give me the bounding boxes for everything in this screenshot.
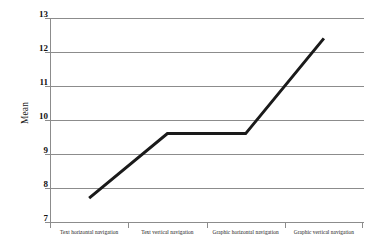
data-series-line xyxy=(50,18,363,222)
x-tick-mark xyxy=(128,222,129,228)
x-category-label: Graphic horizontal navigation xyxy=(213,230,279,236)
x-axis-category-labels: Text horizontal navigationText vertical … xyxy=(50,230,363,248)
x-category-label: Text vertical navigation xyxy=(141,230,193,236)
x-tick-mark xyxy=(285,222,286,228)
series-polyline xyxy=(89,38,324,198)
x-tick-mark xyxy=(207,222,208,228)
x-category-label: Text horizontal navigation xyxy=(60,230,118,236)
x-category-label: Graphic vertical navigation xyxy=(294,230,354,236)
x-tick-mark xyxy=(362,222,363,228)
line-chart: Mean 13121110987 Text horizontal navigat… xyxy=(0,0,368,252)
x-axis-tick-marks xyxy=(50,222,363,229)
x-tick-mark xyxy=(50,222,51,228)
